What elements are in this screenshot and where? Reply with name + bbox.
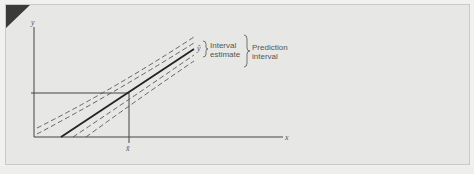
- figure-panel: y x x̄ ŷ Interval estimate Prediction in…: [5, 4, 470, 165]
- prediction-interval-line2: interval: [252, 52, 278, 61]
- prediction-upper-band: [37, 37, 194, 128]
- estimate-upper-band: [37, 43, 194, 134]
- regression-diagram: y x x̄ ŷ Interval estimate Prediction in…: [6, 5, 470, 165]
- x-mean-label: x̄: [125, 144, 130, 153]
- y-hat-label: ŷ: [196, 44, 201, 53]
- interval-estimate-brace-icon: [203, 41, 208, 57]
- interval-estimate-line1: Interval: [210, 41, 236, 50]
- y-axis-label: y: [30, 18, 35, 27]
- prediction-lower-band: [86, 61, 194, 137]
- estimate-lower-band: [73, 55, 194, 137]
- prediction-interval-line1: Prediction: [252, 43, 288, 52]
- x-axis-label: x: [284, 133, 289, 142]
- interval-estimate-line2: estimate: [210, 50, 241, 59]
- prediction-interval-brace-icon: [244, 35, 250, 67]
- page-margin: [0, 166, 474, 174]
